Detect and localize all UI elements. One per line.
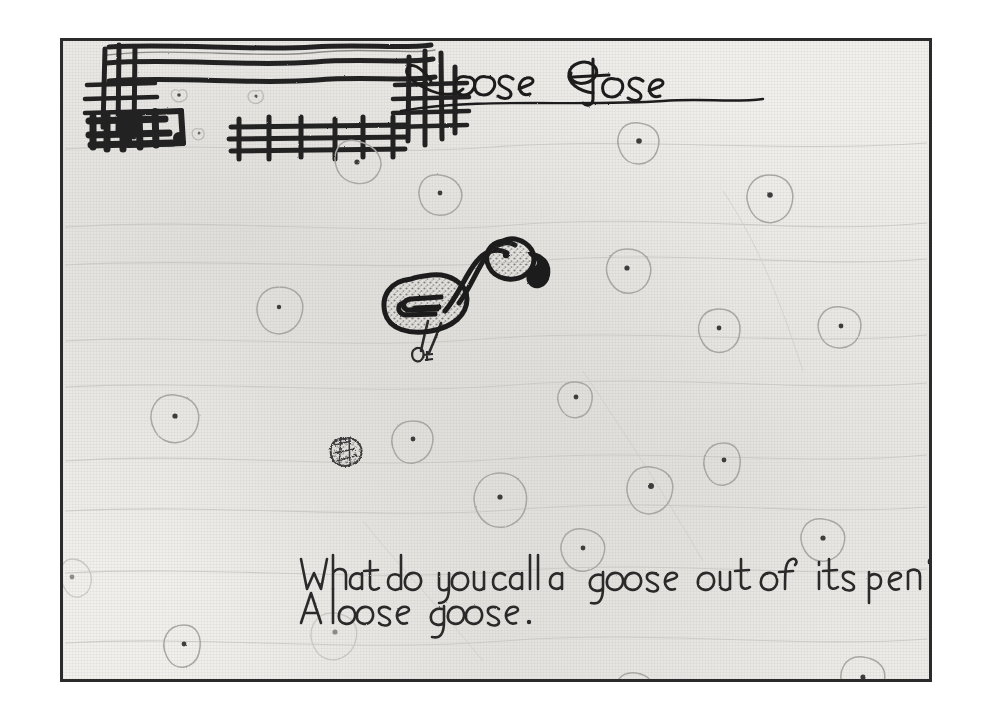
joke-line-1 xyxy=(301,555,929,603)
goose-body xyxy=(384,275,467,332)
artwork-canvas xyxy=(63,41,929,679)
ground-lines-diagonal xyxy=(363,191,803,661)
dark-rock xyxy=(331,437,362,466)
drawing-svg xyxy=(63,41,929,679)
ground-lines xyxy=(65,143,927,679)
drawing-frame: Loose Gose What do you call a goose out … xyxy=(60,38,932,682)
pen-fence xyxy=(85,45,469,159)
page-root: Loose Gose What do you call a goose out … xyxy=(0,0,985,718)
goose-head xyxy=(487,239,534,279)
goose-eye xyxy=(503,252,509,258)
